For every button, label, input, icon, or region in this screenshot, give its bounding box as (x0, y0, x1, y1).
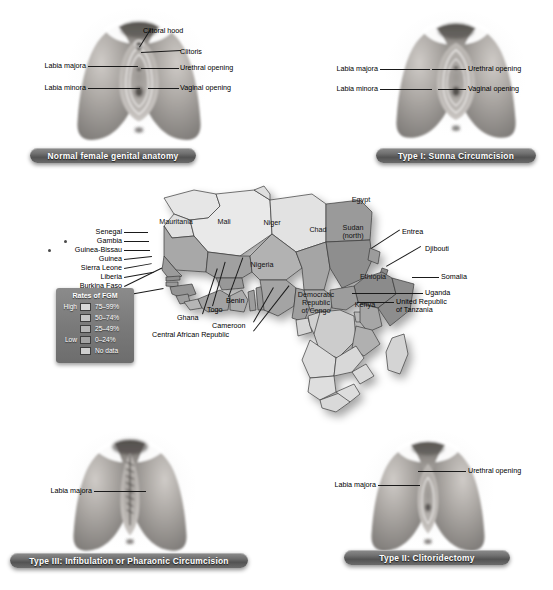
legend-text-50-74: 50–74% (91, 314, 119, 321)
legend-row-0-24: Low 0–24% (61, 334, 129, 345)
caption-type-3: Type III: Infibulation or Pharaonic Circ… (10, 553, 248, 568)
leader-line (380, 89, 432, 90)
leader-line (357, 302, 394, 303)
map-label-benin: Benin (226, 297, 244, 305)
label-labia-majora-type1: Labia majora (316, 65, 378, 73)
caption-type-2: Type II: Clitoridectomy (344, 550, 510, 565)
legend-text-25-49: 25–49% (91, 325, 119, 332)
label-urethral-opening-type2: Urethral opening (468, 467, 521, 475)
map-label-mauritania: Mauritania (159, 218, 193, 226)
leader-line (124, 241, 149, 242)
label-urethral-opening-normal: Urethral opening (180, 64, 233, 72)
leader-line (418, 471, 466, 472)
leader-line (432, 69, 466, 70)
leader-line (124, 250, 150, 251)
map-label-cameroon: Cameroon (212, 322, 246, 330)
leader-line (438, 89, 466, 90)
legend-swatch-50-74 (80, 314, 91, 322)
map-label-djibouti: Djibouti (425, 245, 449, 253)
leader-line (88, 66, 138, 67)
legend-swatch-75-99 (80, 303, 91, 311)
leader-line (412, 277, 439, 278)
leader-line (378, 485, 420, 486)
map-label-senegal: Senegal (60, 228, 122, 236)
map-label-ghana: Ghana (177, 314, 199, 322)
map-label-guinea: Guinea (66, 255, 122, 263)
map-label-uganda: Uganda (425, 289, 450, 297)
legend-row-25-49: 25–49% (61, 323, 129, 334)
legend-row-no-data: No data (61, 345, 129, 356)
legend-row-50-74: 50–74% (61, 312, 129, 323)
label-clitoris: Clitoris (180, 48, 202, 56)
leader-line (88, 88, 140, 89)
map-label-mali: Mali (217, 218, 230, 226)
label-labia-minora-normal: Labia minora (24, 84, 86, 92)
map-label-gambia: Gambia (68, 237, 122, 245)
label-labia-majora-normal: Labia majora (24, 62, 86, 70)
type-2-illustration (338, 428, 518, 556)
map-label-somalia: Somalia (441, 273, 467, 281)
panel-type-1 (366, 6, 546, 146)
map-label-eritrea: Entrea (402, 228, 423, 236)
legend-high-label: High (61, 303, 80, 310)
leader-line (141, 68, 179, 69)
type-1-illustration (366, 6, 546, 146)
label-labia-majora-type2: Labia majora (314, 481, 376, 489)
bullet-dot (64, 240, 67, 243)
leader-line (94, 491, 146, 492)
label-labia-majora-type3: Labia majora (30, 487, 92, 495)
panel-normal-anatomy (46, 6, 232, 146)
leader-line (352, 293, 423, 294)
map-label-egypt: Egypt (352, 196, 370, 204)
legend-text-0-24: 0–24% (91, 336, 116, 343)
map-label-nigeria: Nigeria (251, 261, 274, 269)
legend-row-75-99: High 75–99% (61, 301, 129, 312)
legend-title: Rates of FGM (61, 292, 129, 299)
label-vaginal-opening-normal: Vaginal opening (180, 84, 231, 92)
label-vaginal-opening-type1: Vaginal opening (468, 85, 519, 93)
legend-text-75-99: 75–99% (91, 303, 119, 310)
legend-swatch-25-49 (80, 325, 91, 333)
leader-line (380, 69, 430, 70)
legend-low-label: Low (61, 336, 80, 343)
map-label-ethiopia: Ethiopia (360, 273, 386, 281)
map-legend: Rates of FGM High 75–99% 50–74% 25–49% L… (56, 288, 134, 363)
legend-swatch-0-24 (80, 336, 91, 344)
normal-anatomy-illustration (46, 6, 232, 146)
bullet-dot (48, 249, 51, 252)
legend-text-no-data: No data (91, 347, 118, 354)
map-label-togo: Togo (207, 306, 223, 314)
map-label-tanzania: United Republic of Tanzania (396, 298, 447, 314)
map-label-sierra-leone: Sierra Leone (56, 264, 122, 272)
label-labia-minora-type1: Labia minora (316, 85, 378, 93)
map-label-chad: Chad (309, 226, 326, 234)
panel-type-2 (338, 428, 518, 556)
map-label-central-african-republic: Central African Republic (152, 331, 229, 339)
map-label-liberia: Liberia (72, 273, 122, 281)
leader-line (124, 232, 148, 233)
map-label-niger: Niger (263, 219, 280, 227)
map-label-guinea-bissau: Guinea-Bissau (52, 246, 122, 254)
legend-swatch-no-data (80, 347, 91, 355)
label-urethral-opening-type1: Urethral opening (468, 65, 521, 73)
leader-line (148, 88, 179, 89)
map-label-sudan-north: Sudan (north) (342, 224, 363, 240)
map-label-drc: Democratic Republic of Congo (298, 291, 334, 315)
infographic-page: Labia majora Labia minora Clitoral hood … (0, 0, 553, 590)
